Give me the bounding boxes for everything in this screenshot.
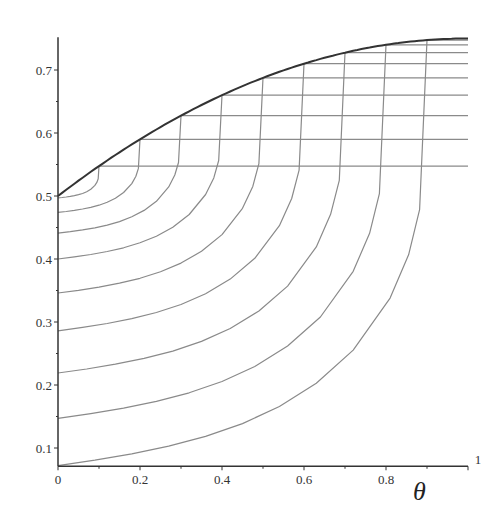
chart-canvas: 0.10.20.30.40.50.60.700.20.40.60.81 θ [0, 0, 495, 527]
x-axis-title: θ [413, 477, 426, 506]
y-tick-label: 0.3 [36, 315, 52, 330]
rising-curve [58, 139, 140, 212]
rising-curve [58, 116, 181, 234]
x-tick-label: 0 [55, 472, 62, 487]
y-tick-label: 0.6 [36, 126, 53, 141]
y-tick-label: 0.4 [36, 252, 53, 267]
x-tick-label: 0.2 [132, 472, 148, 487]
rising-curve [58, 40, 427, 466]
axis-ticks: 0.10.20.30.40.50.60.700.20.40.60.81 [36, 63, 482, 488]
rising-curve [58, 78, 263, 293]
x-tick-label: 0.4 [214, 472, 231, 487]
y-tick-label: 0.5 [36, 189, 52, 204]
envelope-curve [58, 39, 468, 197]
rising-curve [58, 64, 304, 331]
y-tick-label: 0.1 [36, 441, 52, 456]
envelope-line [58, 39, 468, 197]
y-tick-label: 0.7 [36, 63, 53, 78]
x-tick-label: 0.8 [378, 472, 394, 487]
plot-lines [58, 40, 468, 466]
y-tick-label: 0.2 [36, 378, 52, 393]
x-tick-label: 1 [475, 452, 482, 467]
axes [58, 37, 468, 466]
x-tick-label: 0.6 [296, 472, 313, 487]
